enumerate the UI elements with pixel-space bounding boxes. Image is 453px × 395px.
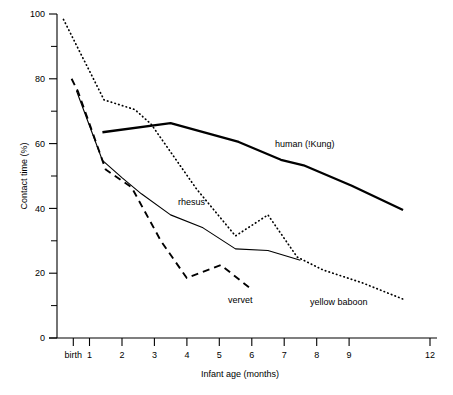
series-label-human: human (!Kung) bbox=[275, 139, 335, 149]
x-tick-label-5: 5 bbox=[217, 350, 222, 360]
x-tick-label-2: 2 bbox=[119, 350, 124, 360]
chart-figure: 0 20 40 60 80 100 birth 1 2 3 4 bbox=[0, 0, 453, 395]
x-tick-label-birth: birth bbox=[65, 350, 83, 360]
series-label-yellow-baboon: yellow baboon bbox=[310, 297, 368, 307]
y-tick-label-60: 60 bbox=[35, 139, 45, 149]
series-line-yellow-baboon bbox=[63, 20, 403, 300]
y-tick-group bbox=[49, 14, 57, 338]
series-line-rhesus bbox=[76, 91, 300, 260]
series-label-vervet: vervet bbox=[228, 295, 253, 305]
x-tick-label-4: 4 bbox=[184, 350, 189, 360]
chart-svg: 0 20 40 60 80 100 birth 1 2 3 4 bbox=[0, 0, 453, 395]
x-tick-label-7: 7 bbox=[282, 350, 287, 360]
x-tick-label-9: 9 bbox=[347, 350, 352, 360]
series-group bbox=[63, 20, 403, 300]
y-tick-label-20: 20 bbox=[35, 268, 45, 278]
x-tick-labels: birth 1 2 3 4 5 6 7 8 9 12 bbox=[65, 350, 435, 360]
y-tick-label-0: 0 bbox=[40, 333, 45, 343]
x-axis-title: Infant age (months) bbox=[201, 369, 279, 379]
x-tick-label-3: 3 bbox=[152, 350, 157, 360]
y-axis-title: Contact time (%) bbox=[19, 142, 29, 209]
x-tick-label-12: 12 bbox=[425, 350, 435, 360]
y-tick-labels: 0 20 40 60 80 100 bbox=[30, 9, 45, 343]
series-line-vervet bbox=[72, 79, 252, 290]
x-tick-label-8: 8 bbox=[314, 350, 319, 360]
y-tick-label-80: 80 bbox=[35, 74, 45, 84]
x-tick-label-6: 6 bbox=[249, 350, 254, 360]
y-tick-label-40: 40 bbox=[35, 204, 45, 214]
x-tick-label-1: 1 bbox=[87, 350, 92, 360]
series-line-human bbox=[102, 123, 403, 210]
y-tick-label-100: 100 bbox=[30, 9, 45, 19]
x-tick-group bbox=[73, 338, 430, 346]
series-label-rhesus: rhesus bbox=[178, 197, 206, 207]
